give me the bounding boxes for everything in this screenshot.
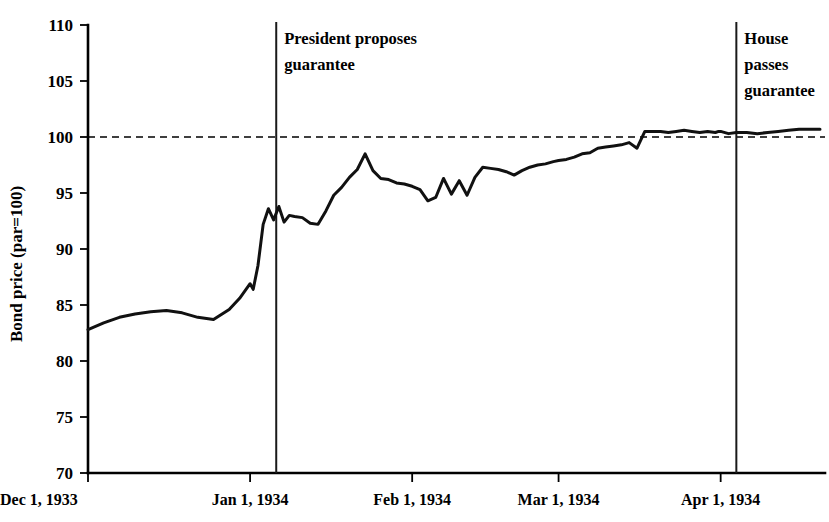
y-tick-label: 90 — [56, 240, 73, 259]
x-tick-label: Mar 1, 1934 — [518, 491, 600, 508]
y-axis-ticks: 707580859095100105110 — [48, 16, 89, 483]
series-line-bond-price — [88, 129, 820, 329]
y-tick-label: 85 — [56, 296, 73, 315]
x-tick-label: Dec 1, 1933 — [0, 491, 78, 508]
house-passes-guarantee-line-2: passes — [744, 55, 789, 74]
annotations-group: President proposesguaranteeHousepassesgu… — [284, 29, 815, 100]
x-tick-label: Jan 1, 1934 — [212, 491, 289, 508]
chart-canvas: 707580859095100105110 Dec 1, 1933Jan 1, … — [0, 0, 829, 522]
bond-price-chart: 707580859095100105110 Dec 1, 1933Jan 1, … — [0, 0, 829, 522]
data-series-group — [88, 129, 820, 329]
x-tick-label: Feb 1, 1934 — [373, 491, 451, 508]
x-axis-ticks: Dec 1, 1933Jan 1, 1934Feb 1, 1934Mar 1, … — [0, 473, 760, 509]
y-tick-label: 100 — [48, 128, 74, 147]
y-tick-label: 105 — [48, 72, 74, 91]
y-tick-label: 70 — [56, 464, 73, 483]
y-axis-group: 707580859095100105110 — [48, 16, 89, 483]
president-proposes-guarantee-line-1: President proposes — [284, 29, 417, 48]
y-tick-label: 80 — [56, 352, 73, 371]
house-passes-guarantee-line-3: guarantee — [744, 81, 815, 100]
x-axis-group: Dec 1, 1933Jan 1, 1934Feb 1, 1934Mar 1, … — [0, 473, 825, 509]
house-passes-guarantee-line-1: House — [744, 29, 788, 48]
event-lines-group — [276, 22, 736, 473]
y-tick-label: 75 — [56, 408, 73, 427]
y-tick-label: 95 — [56, 184, 73, 203]
x-tick-label: Apr 1, 1934 — [681, 491, 760, 509]
y-tick-label: 110 — [48, 16, 73, 35]
y-axis-title: Bond price (par=100) — [7, 186, 26, 342]
president-proposes-guarantee-line-2: guarantee — [284, 55, 355, 74]
